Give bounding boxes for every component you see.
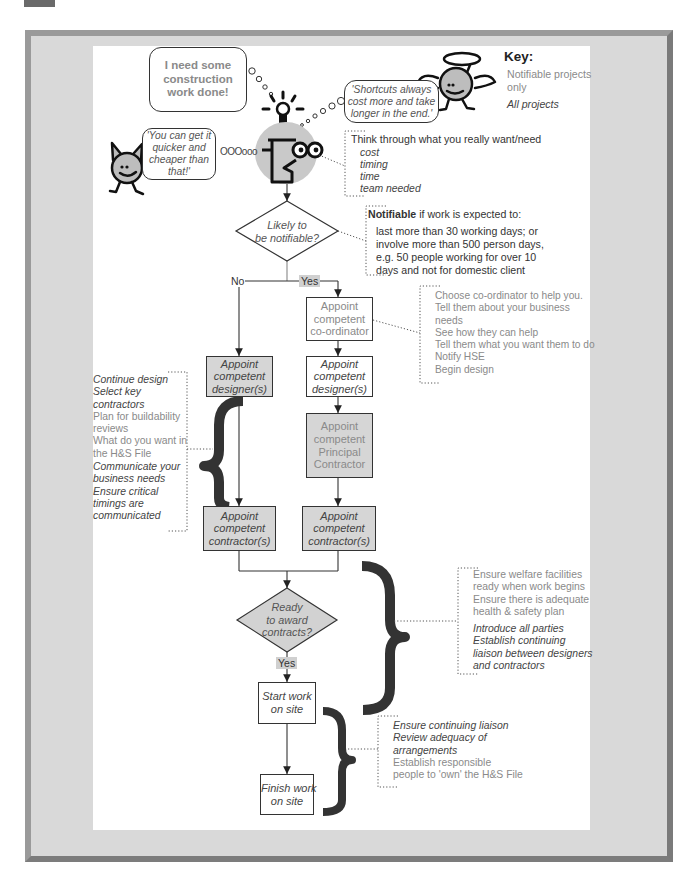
box-line: Appoint	[307, 300, 372, 313]
devil-icon	[110, 143, 143, 194]
box-line: Appoint	[204, 510, 275, 523]
decision-line: be notifiable?	[237, 232, 337, 245]
legend-notifiable-line: Notifiable projects	[507, 68, 591, 81]
notifiable-criteria-note: Notifiable if work is expected to: last …	[368, 208, 544, 276]
note-line: contractors	[93, 399, 187, 411]
note-line: communicated	[93, 510, 187, 522]
angel-line: longer in the end.'	[345, 108, 438, 120]
note-line: and contractors	[473, 660, 593, 672]
award-note-notifiable: Ensure welfare facilities ready when wor…	[473, 569, 593, 618]
legend-notifiable-line: only	[507, 81, 591, 94]
legend-all-projects: All projects	[507, 98, 591, 111]
note-line: Establish continuing	[473, 635, 593, 647]
note-line: Ensure welfare facilities	[473, 569, 593, 581]
think-through-note: Think through what you really want/need …	[351, 133, 541, 195]
note-line: Select key	[93, 386, 187, 398]
box-line: Principal	[307, 446, 372, 459]
decision-award-label: Ready to award contracts?	[237, 601, 337, 639]
box-line: on site	[259, 703, 315, 716]
need-thought-trail	[249, 68, 273, 96]
decision-notifiable-label: Likely to be notifiable?	[237, 219, 337, 244]
note-line: Tell them what you want them to do	[435, 339, 595, 351]
note-line: ready when work begins	[473, 581, 593, 593]
need-construction-bubble: I need some construction work done!	[149, 47, 247, 112]
box-line: Start work	[259, 690, 315, 703]
appoint-contractor-box-right: Appoint competent contractor(s)	[302, 506, 376, 551]
notifiable-rest: if work is expected to:	[416, 208, 521, 220]
branch-yes-label: Yes	[299, 275, 320, 287]
design-note-all-1: Continue design Select key contractors	[93, 374, 187, 411]
design-brace-icon	[204, 401, 243, 507]
award-note-all: Introduce all parties Establish continui…	[473, 623, 593, 672]
appoint-coordinator-box: Appoint competent co-ordinator	[306, 297, 373, 341]
note-line: Choose co-ordinator to help you.	[435, 290, 595, 302]
need-line: work done!	[150, 86, 246, 100]
think-item: cost	[360, 147, 541, 159]
lightbulb-icon	[263, 92, 303, 123]
note-line: reviews	[93, 423, 187, 435]
decision-line: Ready	[237, 601, 337, 614]
decision-line: contracts?	[237, 626, 337, 639]
start-work-box: Start work on site	[258, 682, 316, 724]
box-line: Finish work	[261, 782, 313, 795]
think-item: time	[360, 171, 541, 183]
box-line: Appoint	[307, 420, 372, 433]
legend-title: Key:	[504, 49, 591, 64]
devil-line: quicker and	[143, 142, 215, 154]
box-line: Appoint	[307, 358, 372, 371]
box-line: competent	[307, 313, 372, 326]
site-note: Ensure continuing liaison Review adequac…	[393, 720, 523, 781]
note-line: timings are	[93, 498, 187, 510]
notifiable-bold: Notifiable	[368, 208, 416, 220]
criteria-line: e.g. 50 people working for over 10	[376, 251, 544, 264]
appoint-designer-box-left: Appoint competent designer(s)	[206, 356, 273, 397]
site-brace-icon	[323, 711, 352, 812]
notifiable-criteria-heading: Notifiable if work is expected to:	[368, 208, 544, 220]
decision-line: to award	[237, 614, 337, 627]
box-line: designer(s)	[207, 383, 272, 396]
design-note-notifiable: Plan for buildability reviews What do yo…	[93, 411, 187, 460]
design-note: Continue design Select key contractors P…	[93, 374, 187, 523]
branch-no-label: No	[231, 275, 245, 287]
box-line: on site	[261, 795, 313, 808]
note-line: needs	[435, 315, 595, 327]
box-line: competent	[207, 370, 272, 383]
note-line: Establish responsible	[393, 757, 523, 769]
award-yes-label: Yes	[276, 657, 297, 669]
note-line: people to 'own' the H&S File	[393, 769, 523, 781]
devil-line: 'You can get it	[143, 130, 215, 142]
finish-work-box: Finish work on site	[260, 774, 314, 815]
note-line: Tell them about your business	[435, 302, 595, 314]
note-line: liaison between designers	[473, 648, 593, 660]
site-note-notifiable: Establish responsible people to 'own' th…	[393, 757, 523, 782]
design-note-all-2: Communicate your business needs Ensure c…	[93, 461, 187, 522]
angel-line: 'Shortcuts always	[345, 84, 438, 96]
note-line: health & safety plan	[473, 606, 593, 618]
criteria-line: last more than 30 working days; or	[376, 225, 544, 238]
need-line: construction	[150, 73, 246, 87]
decision-line: Likely to	[237, 219, 337, 232]
note-line: Ensure there is adequate	[473, 594, 593, 606]
criteria-line: involve more than 500 person days,	[376, 238, 544, 251]
note-line: the H&S File	[93, 448, 187, 460]
legend-notifiable: Notifiable projects only	[507, 68, 591, 94]
think-item: team needed	[360, 183, 541, 195]
note-line: Begin design	[435, 364, 595, 376]
criteria-line: days and not for domestic client	[376, 264, 544, 277]
need-line: I need some	[150, 59, 246, 73]
box-line: contractor(s)	[303, 535, 375, 548]
appoint-designer-box-right: Appoint competent designer(s)	[306, 356, 373, 397]
note-line: Communicate your	[93, 461, 187, 473]
devil-thought-trail: OOOooo	[220, 146, 257, 157]
box-line: designer(s)	[307, 383, 372, 396]
legend: Key: Notifiable projects only All projec…	[504, 49, 591, 111]
box-line: competent	[204, 522, 275, 535]
note-line: Notify HSE	[435, 351, 595, 363]
note-line: Review adequacy of	[393, 732, 523, 744]
box-line: Appoint	[207, 358, 272, 371]
box-line: co-ordinator	[307, 325, 372, 338]
box-line: Appoint	[303, 510, 375, 523]
box-line: competent	[303, 522, 375, 535]
note-line: Ensure critical	[93, 486, 187, 498]
appoint-contractor-box-left: Appoint competent contractor(s)	[203, 506, 276, 551]
